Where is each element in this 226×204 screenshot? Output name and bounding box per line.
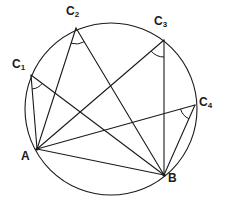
angle-arc-C4 [181,109,189,119]
point-label-c3: C3 [154,15,167,27]
point-label-b: B [168,172,177,184]
vertex-dot-b [162,173,165,176]
angle-arc-C2 [71,42,84,44]
chord-group [31,28,195,175]
chord-C2-A [37,28,76,149]
vertex-dot-a [35,147,38,150]
angle-arc-C1 [32,83,42,89]
point-label-c2: C2 [66,5,79,17]
chord-C1-A [31,75,37,149]
chord-C4-A [37,105,195,149]
circumscribed-circle [25,23,197,195]
chord-C4-B [164,105,195,175]
point-label-c1: C1 [12,58,25,70]
angle-arc-C3 [151,51,164,57]
geometry-canvas [0,0,226,204]
geometry-figure: C1 C2 C3 C4 A B [0,0,226,204]
chord-AB [37,149,164,175]
chord-C1-B [31,75,164,175]
angle-mark-group [32,42,189,119]
chord-C2-B [76,28,164,175]
point-label-c4: C4 [199,96,212,108]
point-label-a: A [21,150,30,162]
